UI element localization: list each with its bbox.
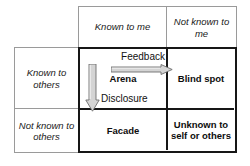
quadrant-facade: Facade: [80, 108, 166, 150]
row-header-not-known-to-others: Not known to others: [14, 108, 79, 153]
column-header-known-to-me: Known to me: [78, 6, 167, 48]
quadrant-unknown-to-self-or-others-label: Unknown to self or others: [170, 119, 232, 141]
disclosure-arrow-label: Disclosure: [101, 93, 148, 105]
quadrant-facade-label: Facade: [107, 125, 140, 136]
column-header-not-known-to-me-label: Not known to me: [167, 16, 236, 39]
column-header-known-to-me-label: Known to me: [79, 21, 166, 33]
quadrant-blind-spot-label: Blind spot: [178, 73, 224, 84]
row-header-known-to-others: Known to others: [14, 47, 79, 109]
column-header-not-known-to-me: Not known to me: [166, 6, 237, 48]
quadrant-unknown-to-self-or-others: Unknown to self or others: [166, 108, 234, 150]
feedback-arrow-label: Feedback: [108, 51, 178, 63]
row-header-not-known-to-others-label: Not known to others: [15, 119, 78, 142]
row-header-known-to-others-label: Known to others: [15, 67, 78, 90]
johari-window-diagram: Known to me Not known to me Known to oth…: [0, 0, 250, 166]
quadrant-arena-label: Arena: [110, 73, 137, 84]
